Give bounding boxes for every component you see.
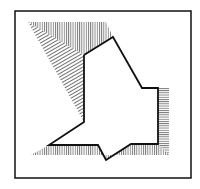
polygon-diagram (0, 0, 200, 189)
right-horizontal-hatch (158, 88, 169, 155)
hatched-regions (28, 22, 169, 160)
bottom-vertical-hatch (31, 144, 169, 160)
